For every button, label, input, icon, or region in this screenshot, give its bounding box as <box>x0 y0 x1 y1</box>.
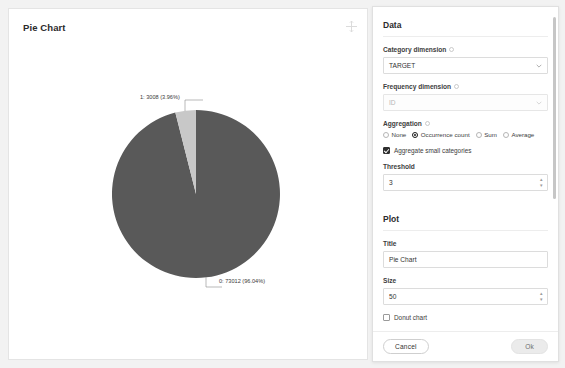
radio-aggregation-occurrence-count[interactable]: Occurrence count <box>412 131 469 138</box>
leader-line-small <box>185 100 203 111</box>
field-frequency-dimension: Frequency dimension ID <box>383 83 548 111</box>
field-threshold: Threshold 3 ▴ ▾ <box>383 163 548 191</box>
plot-title-value: Pie Chart <box>389 256 417 263</box>
donut-chart-label: Donut chart <box>394 314 427 321</box>
settings-scroll-area: Data Category dimension TARGET Frequency… <box>373 7 558 331</box>
app-root: Pie Chart 1: 3008 (3.96%) 0: 73012 (96.0… <box>0 0 565 368</box>
radio-aggregation-none[interactable]: None <box>383 131 406 138</box>
cancel-button[interactable]: Cancel <box>383 339 429 354</box>
field-category-dimension: Category dimension TARGET <box>383 46 548 74</box>
threshold-label-text: Threshold <box>383 163 415 170</box>
pie-chart-plot: 1: 3008 (3.96%) 0: 73012 (96.04%) <box>9 35 369 361</box>
chevron-up-icon[interactable]: ▴ <box>540 291 543 296</box>
radio-label-occurrence-count: Occurrence count <box>421 131 470 138</box>
label-threshold: Threshold <box>383 163 548 170</box>
help-circle-icon[interactable] <box>425 121 430 126</box>
checkbox-unchecked-icon <box>383 314 390 321</box>
radio-dot-icon <box>476 132 482 138</box>
radio-aggregation-sum[interactable]: Sum <box>476 131 497 138</box>
field-plot-size: Size 50 ▴ ▾ <box>383 277 548 305</box>
aggregation-radio-group: None Occurrence count Sum Average <box>383 131 548 138</box>
radio-dot-icon <box>503 132 509 138</box>
plot-title-input[interactable]: Pie Chart <box>383 251 548 268</box>
frequency-dimension-value: ID <box>389 99 396 106</box>
frequency-dimension-label-text: Frequency dimension <box>383 83 451 90</box>
radio-label-none: None <box>392 131 407 138</box>
plot-size-label-text: Size <box>383 277 396 284</box>
pie-label-0: 0: 73012 (96.04%) <box>219 278 265 284</box>
chevron-down-icon[interactable]: ▾ <box>540 183 543 188</box>
label-frequency-dimension: Frequency dimension <box>383 83 548 90</box>
chevron-down-icon[interactable]: ▾ <box>540 297 543 302</box>
scrollbar-thumb[interactable] <box>553 17 556 199</box>
pie-label-1: 1: 3008 (3.96%) <box>140 94 180 100</box>
plot-title-label-text: Title <box>383 240 396 247</box>
radio-label-average: Average <box>511 131 534 138</box>
chevron-down-icon <box>536 100 542 106</box>
checkbox-aggregate-small-categories[interactable]: Aggregate small categories <box>383 147 548 154</box>
threshold-stepper[interactable]: 3 ▴ ▾ <box>383 174 548 191</box>
stepper-arrows[interactable]: ▴ ▾ <box>540 177 543 188</box>
section-heading-plot: Plot <box>383 200 548 231</box>
chevron-down-icon <box>536 63 542 69</box>
plot-size-stepper[interactable]: 50 ▴ ▾ <box>383 288 548 305</box>
label-aggregation: Aggregation <box>383 120 548 127</box>
help-circle-icon[interactable] <box>449 47 454 52</box>
chevron-up-icon[interactable]: ▴ <box>540 177 543 182</box>
category-dimension-value: TARGET <box>389 62 415 69</box>
category-dimension-label-text: Category dimension <box>383 46 446 53</box>
radio-dot-icon <box>383 132 389 138</box>
stepper-arrows[interactable]: ▴ ▾ <box>540 291 543 302</box>
radio-label-sum: Sum <box>484 131 497 138</box>
field-plot-title: Title Pie Chart <box>383 240 548 268</box>
settings-panel: Data Category dimension TARGET Frequency… <box>372 6 559 362</box>
move-crosshair-icon[interactable] <box>343 18 359 34</box>
panel-scrollbar[interactable] <box>553 17 556 331</box>
threshold-value: 3 <box>389 179 393 186</box>
section-heading-data: Data <box>383 7 548 37</box>
checkbox-donut-chart[interactable]: Donut chart <box>383 314 548 321</box>
checkbox-checked-icon <box>383 147 390 154</box>
help-circle-icon[interactable] <box>454 84 459 89</box>
frequency-dimension-select: ID <box>383 94 548 111</box>
field-aggregation: Aggregation None Occurrence count Sum <box>383 120 548 138</box>
radio-dot-selected-icon <box>412 132 418 138</box>
page-title: Pie Chart <box>23 22 66 33</box>
aggregate-small-categories-label: Aggregate small categories <box>394 147 471 154</box>
radio-aggregation-average[interactable]: Average <box>503 131 534 138</box>
aggregation-label-text: Aggregation <box>383 120 422 127</box>
panel-footer: Cancel Ok <box>373 331 558 361</box>
label-plot-size: Size <box>383 277 548 284</box>
pie-chart-svg <box>9 35 369 361</box>
chart-pane: Pie Chart 1: 3008 (3.96%) 0: 73012 (96.0… <box>8 8 368 360</box>
ok-button[interactable]: Ok <box>511 339 548 354</box>
category-dimension-select[interactable]: TARGET <box>383 57 548 74</box>
plot-size-value: 50 <box>389 293 396 300</box>
label-category-dimension: Category dimension <box>383 46 548 53</box>
label-plot-title: Title <box>383 240 548 247</box>
